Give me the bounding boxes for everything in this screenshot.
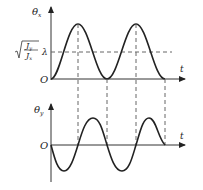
level-lambda-label: λ (41, 47, 48, 57)
bottom-plot: θy t O (34, 104, 185, 182)
top-x-label: t (180, 64, 184, 74)
bottom-y-label: θy (34, 104, 44, 117)
bottom-x-label: t (180, 131, 184, 141)
sqrt-expression: Jy Jx (15, 41, 39, 61)
diagram-canvas: θx t O λ Jy Jx θy t O (0, 0, 203, 190)
bottom-origin-label: O (40, 140, 48, 151)
diagram-svg: θx t O λ Jy Jx θy t O (0, 0, 203, 190)
top-y-label: θx (32, 6, 42, 18)
vertical-guides (78, 24, 165, 145)
svg-text:Jx: Jx (24, 51, 32, 61)
top-origin-label: O (40, 74, 48, 85)
top-plot: θx t O λ Jy Jx (15, 6, 185, 85)
